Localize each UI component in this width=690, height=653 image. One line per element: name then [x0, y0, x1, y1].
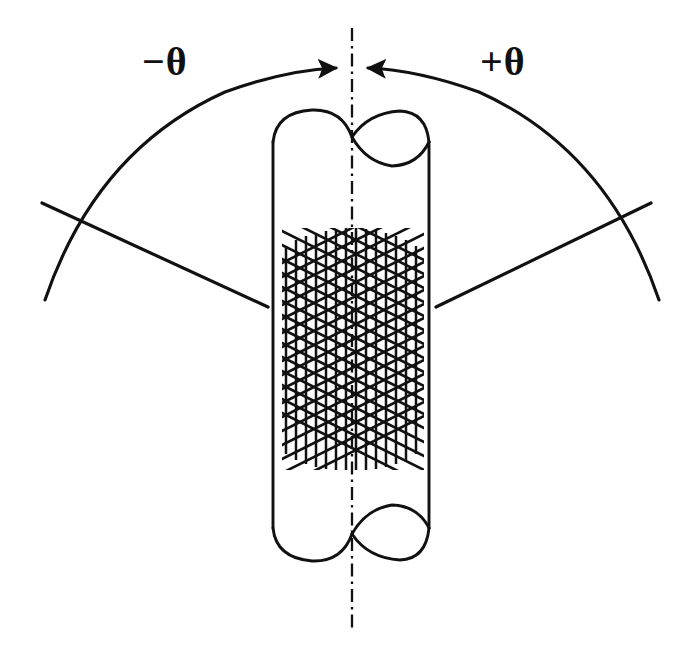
negative-angle-ray [42, 203, 268, 307]
bottom-opening-upper-edge [352, 505, 429, 534]
negative-angle-label: −θ [142, 42, 188, 82]
top-opening-upper-edge [352, 111, 429, 142]
diagram-canvas [0, 0, 690, 653]
positive-angle-ray [436, 203, 651, 307]
top-back-rim [273, 110, 352, 142]
arc-right-segment [368, 68, 659, 300]
top-opening-lower-edge [352, 137, 429, 166]
positive-angle-label: +θ [480, 42, 526, 82]
bottom-front-rim [273, 528, 352, 561]
bottom-opening-lower-edge [352, 528, 429, 560]
winding-pattern [280, 188, 432, 488]
figure-root: −θ +θ [0, 0, 690, 653]
